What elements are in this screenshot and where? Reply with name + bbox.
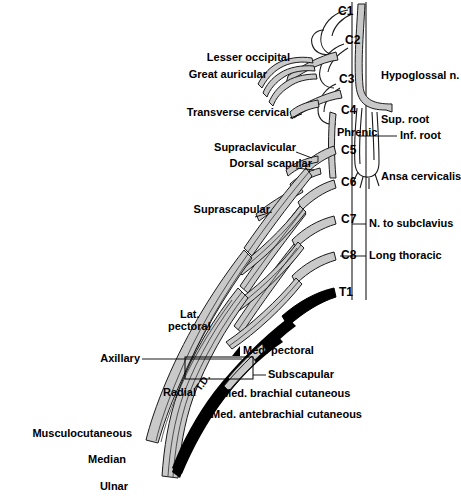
label-axillary: Axillary (86, 353, 140, 364)
label-lesser-occipital: Lesser occipital (175, 52, 290, 63)
root-label-t1: T1 (339, 286, 353, 298)
label-radial: Radial (152, 387, 196, 398)
root-label-c6: C6 (341, 176, 356, 188)
label-subscapular: Subscapular (268, 369, 334, 380)
root-label-c5: C5 (341, 144, 356, 156)
label-nerve-to-subclavius: N. to subclavius (369, 218, 453, 229)
label-inferior-root: Inf. root (400, 130, 441, 141)
label-median: Median (74, 454, 126, 465)
label-lat-pectoral-line2: pectoral (168, 321, 211, 332)
label-med-pectoral: Med. pectoral (243, 345, 314, 356)
root-label-c1: C1 (338, 5, 353, 17)
label-med-brachial-cutaneous: Med. brachial cutaneous (222, 388, 350, 399)
root-label-c7: C7 (341, 213, 356, 225)
phrenic-nerve (329, 112, 337, 178)
label-lat-pectoral-line1: Lat. (180, 309, 200, 320)
label-transverse-cervical: Transverse cervical (161, 107, 289, 118)
label-supraclavicular: Supraclavicular (192, 142, 296, 153)
label-phrenic: Phrenic (337, 127, 377, 138)
root-label-c8: C8 (341, 249, 356, 261)
root-label-c3: C3 (339, 73, 354, 85)
label-med-antebrachial-cutaneous: Med. antebrachial cutaneous (211, 409, 362, 420)
label-suprascapular: Suprascapular (166, 204, 270, 215)
label-great-auricular: Great auricular (152, 69, 267, 80)
label-ulnar: Ulnar (88, 481, 128, 492)
root-label-c4: C4 (341, 104, 356, 116)
root-label-c2: C2 (345, 34, 360, 46)
label-musculocutaneous: Musculocutaneous (8, 428, 132, 439)
label-long-thoracic: Long thoracic (369, 250, 442, 261)
hypoglossal-nerve (355, 4, 392, 112)
label-dorsal-scapular: Dorsal scapular (208, 158, 312, 169)
label-superior-root: Sup. root (381, 114, 429, 125)
label-ansa-cervicalis: Ansa cervicalis (381, 171, 461, 182)
label-hypoglossal-nerve: Hypoglossal n. (381, 70, 459, 81)
